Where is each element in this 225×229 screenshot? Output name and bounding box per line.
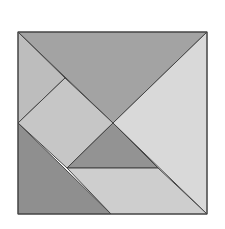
tangram-diagram (0, 0, 225, 229)
